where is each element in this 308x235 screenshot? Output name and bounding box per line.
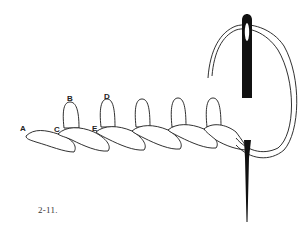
label-e: E: [92, 124, 98, 133]
needle-eye: [242, 14, 252, 98]
label-d: D: [104, 92, 110, 101]
label-b: B: [67, 94, 73, 103]
needle-point: [244, 140, 251, 222]
stitch-loops: [63, 98, 221, 128]
stitch-diagram: A B C D E: [0, 0, 308, 235]
label-a: A: [20, 124, 26, 133]
figure-caption: 2-11.: [38, 205, 58, 215]
label-c: C: [54, 125, 60, 134]
